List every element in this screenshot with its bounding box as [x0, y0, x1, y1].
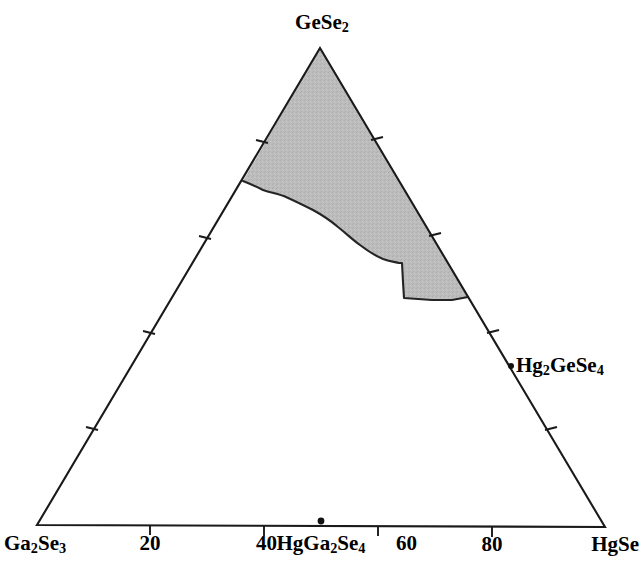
compound-hg2gese4-text1: Hg	[516, 353, 543, 377]
bottom-tick-label-80: 80	[482, 534, 503, 555]
point-marker-hg2gese4	[508, 363, 514, 369]
vertex-label-top-sub: 2	[342, 19, 349, 35]
bottom-tick-label-20-text: 20	[140, 531, 161, 555]
compound-hgga2se4-sub2: 4	[358, 540, 365, 556]
vertex-label-bl-text2: Se	[38, 531, 59, 555]
vertex-label-bottom-left: Ga2Se3	[4, 533, 66, 555]
compound-label-hg2gese4: Hg2GeSe4	[516, 355, 604, 377]
compound-hg2gese4-text2: GeSe	[550, 353, 597, 377]
bottom-tick-label-20: 20	[140, 533, 161, 554]
vertex-label-bl-sub2: 3	[59, 540, 66, 556]
diagram-canvas	[0, 0, 641, 568]
vertex-label-top-text: GeSe	[295, 10, 342, 34]
vertex-label-bl-text1: Ga	[4, 531, 31, 555]
bottom-tick-label-40-text: 40	[256, 531, 277, 555]
vertex-label-bottom-right: HgSe	[591, 534, 639, 555]
bottom-tick-label-80-text: 80	[482, 532, 503, 556]
shaded-phase-region	[243, 48, 468, 300]
compound-hgga2se4-text2: Se	[337, 531, 358, 555]
compound-hgga2se4-text1: HgGa	[277, 531, 331, 555]
point-marker-hgga2se4	[318, 518, 325, 525]
compound-hg2gese4-sub1: 2	[543, 362, 550, 378]
compound-label-hgga2se4: HgGa2Se4	[277, 533, 366, 555]
compound-hgga2se4-sub1: 2	[330, 540, 337, 556]
ternary-phase-diagram-figure: GeSe2 Ga2Se3 HgSe 20 40 60 80 HgGa2Se4 H…	[0, 0, 641, 568]
bottom-tick-label-60: 60	[396, 533, 417, 554]
compound-hg2gese4-sub2: 4	[597, 362, 604, 378]
vertex-label-bl-sub1: 2	[31, 540, 38, 556]
bottom-tick-label-40: 40	[256, 533, 277, 554]
bottom-tick-label-60-text: 60	[396, 531, 417, 555]
vertex-label-top: GeSe2	[295, 12, 349, 34]
vertex-label-br-text: HgSe	[591, 532, 639, 556]
